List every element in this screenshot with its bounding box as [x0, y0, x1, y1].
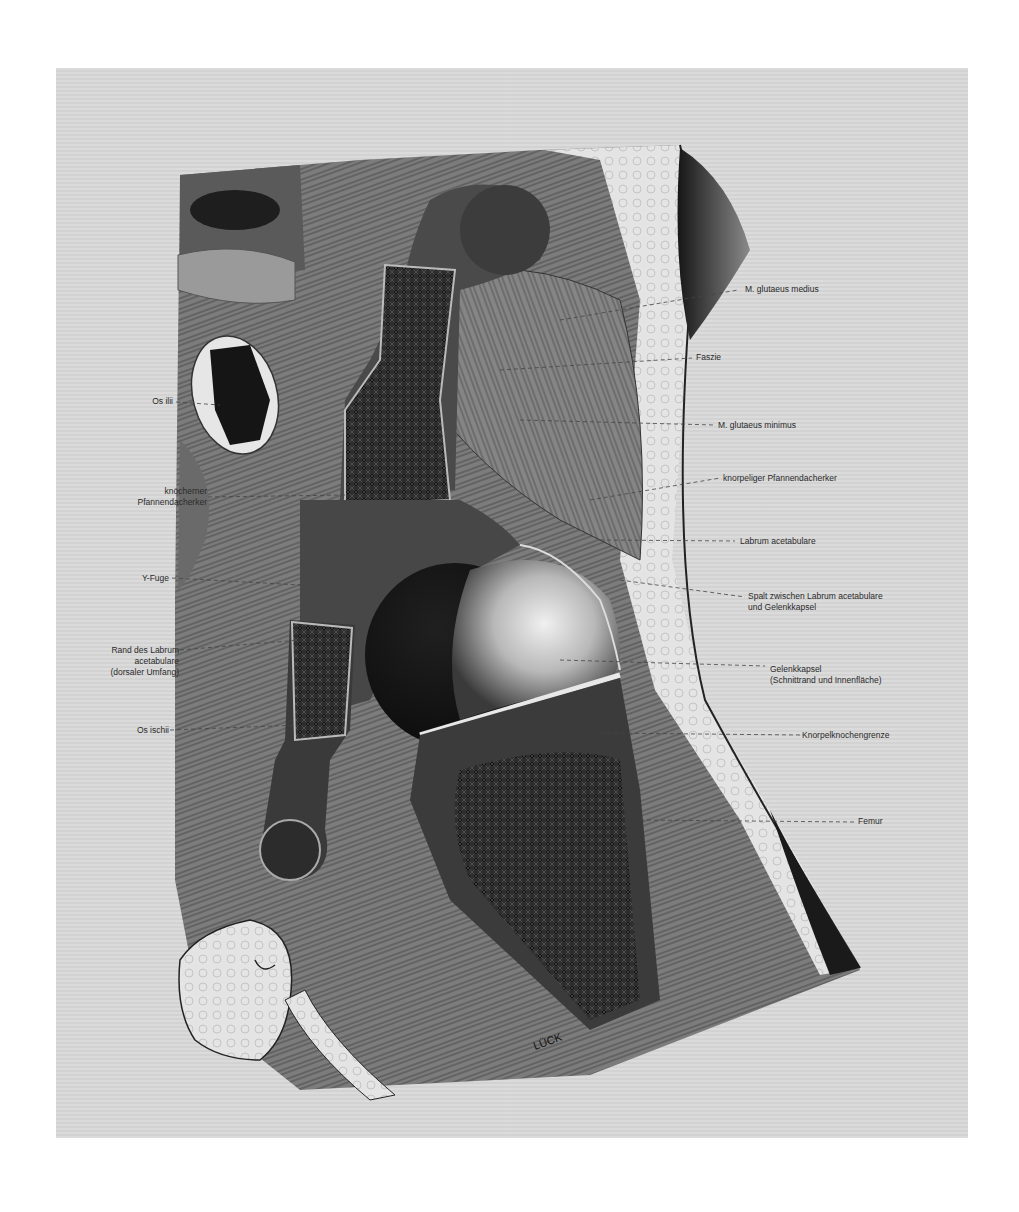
iliac-crest-head: [460, 185, 550, 275]
label-m-glutaeus-minimus: M. glutaeus minimus: [718, 420, 796, 431]
ischial-tuberosity: [260, 820, 320, 880]
label-gelenkkapsel: Gelenkkapsel (Schnittrand und Innenfläch…: [770, 664, 882, 686]
striated-band: [178, 249, 295, 303]
label-knorpelknochengrenze: Knorpelknochengrenze: [802, 730, 889, 741]
label-spalt: Spalt zwischen Labrum acetabulare und Ge…: [748, 591, 883, 613]
label-faszie: Faszie: [696, 352, 721, 363]
label-rand-des-labrum: Rand des Labrum acetabulare (dorsaler Um…: [111, 645, 180, 678]
label-m-glutaeus-medius: M. glutaeus medius: [745, 284, 819, 295]
label-knorpeliger-pfannendacherker: knorpeliger Pfannendacherker: [723, 473, 837, 484]
label-y-fuge: Y-Fuge: [142, 573, 169, 584]
label-os-ischii: Os ischii: [137, 725, 169, 736]
skin-fold-dark: [678, 148, 750, 340]
label-labrum-acetabulare: Labrum acetabulare: [740, 536, 816, 547]
label-femur: Femur: [858, 816, 883, 827]
ischium-spongy: [292, 622, 352, 740]
label-knoecherner-pfannendacherker: knöcherner Pfannendacherker: [138, 486, 207, 508]
label-os-ilii: Os ilii: [152, 396, 173, 407]
dark-oval: [190, 190, 280, 230]
